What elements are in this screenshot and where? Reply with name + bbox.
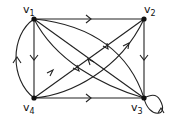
arrow-v4-v2-straight [47,70,53,76]
label-v2: v2 [144,3,156,18]
label-v4: v4 [23,101,35,116]
node-v4 [31,95,36,100]
arrow-v3-v1 [88,59,94,65]
label-v3: v3 [131,101,143,116]
edge-v4-v1 [16,19,34,98]
arrow-v4-v1 [13,57,21,63]
node-v3 [141,95,146,100]
label-v1: v1 [23,3,35,18]
